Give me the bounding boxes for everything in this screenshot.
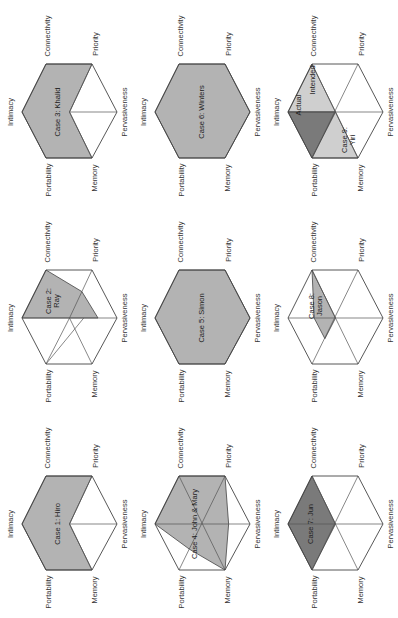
- case-label: Case 4: John & Mary: [191, 489, 199, 559]
- memory-label: Memory: [90, 576, 99, 603]
- pervasiveness-label: Pervasiveness: [386, 500, 395, 549]
- pervasiveness-label: Pervasiveness: [253, 294, 262, 343]
- hexagon-chart: [266, 0, 398, 206]
- priority-label: Priority: [91, 238, 100, 261]
- portability-label: Portability: [44, 576, 53, 609]
- hexagon-chart: [0, 0, 133, 206]
- intimacy-label: Intimacy: [272, 98, 281, 126]
- connectivity-label: Connectivity: [176, 428, 185, 469]
- hexagon-case1: IntimacyConnectivityPriorityPervasivenes…: [0, 412, 133, 618]
- priority-label: Priority: [224, 32, 233, 55]
- priority-label: Priority: [224, 444, 233, 467]
- priority-label: Priority: [357, 444, 366, 467]
- hexagon-case4: IntimacyConnectivityPriorityPervasivenes…: [133, 412, 266, 618]
- pervasiveness-label: Pervasiveness: [120, 500, 129, 549]
- priority-label: Priority: [91, 444, 100, 467]
- hexagon-case3: IntimacyConnectivityPriorityPervasivenes…: [0, 0, 133, 206]
- hexagon-case9: IntimacyConnectivityPriorityPervasivenes…: [266, 0, 398, 206]
- actual-label: Actual: [295, 95, 303, 116]
- pervasiveness-label: Pervasiveness: [253, 88, 262, 137]
- intimacy-label: Intimacy: [6, 98, 15, 126]
- memory-label: Memory: [223, 164, 232, 191]
- priority-label: Priority: [357, 238, 366, 261]
- case-label: Case 2:Ray: [45, 288, 62, 314]
- hexagon-case6: IntimacyConnectivityPriorityPervasivenes…: [133, 0, 266, 206]
- portability-label: Portability: [310, 576, 319, 609]
- hexagon-case8: IntimacyConnectivityPriorityPervasivenes…: [266, 206, 398, 412]
- case-label: Case 7: Jun: [307, 504, 315, 544]
- priority-label: Priority: [357, 32, 366, 55]
- intimacy-label: Intimacy: [6, 304, 15, 332]
- connectivity-label: Connectivity: [43, 222, 52, 263]
- portability-label: Portability: [44, 164, 53, 197]
- intended-label: Intended: [309, 65, 317, 94]
- portability-label: Portability: [177, 576, 186, 609]
- memory-label: Memory: [90, 164, 99, 191]
- intimacy-label: Intimacy: [272, 510, 281, 538]
- memory-label: Memory: [90, 370, 99, 397]
- portability-label: Portability: [177, 164, 186, 197]
- hexagon-case2: IntimacyConnectivityPriorityPervasivenes…: [0, 206, 133, 412]
- intimacy-label: Intimacy: [139, 304, 148, 332]
- memory-label: Memory: [223, 576, 232, 603]
- case-label: Case 5: Simon: [198, 293, 206, 342]
- connectivity-label: Connectivity: [43, 428, 52, 469]
- portability-label: Portability: [310, 164, 319, 197]
- intimacy-label: Intimacy: [272, 304, 281, 332]
- priority-label: Priority: [224, 238, 233, 261]
- memory-label: Memory: [223, 370, 232, 397]
- hexagon-case7: IntimacyConnectivityPriorityPervasivenes…: [266, 412, 398, 618]
- case-label: Case 3: Khalid: [54, 88, 62, 137]
- case-label: Case 8:Jason: [308, 293, 325, 319]
- pervasiveness-label: Pervasiveness: [253, 500, 262, 549]
- case-label: Case 1: Hiro: [54, 503, 62, 545]
- hexagon-chart: [266, 412, 398, 618]
- hexagon-case5: IntimacyConnectivityPriorityPervasivenes…: [133, 206, 266, 412]
- connectivity-label: Connectivity: [309, 16, 318, 57]
- pervasiveness-label: Pervasiveness: [386, 88, 395, 137]
- pervasiveness-label: Pervasiveness: [120, 88, 129, 137]
- portability-label: Portability: [310, 370, 319, 403]
- portability-label: Portability: [177, 370, 186, 403]
- case-label: Case 6: Winters: [198, 85, 206, 138]
- memory-label: Memory: [356, 576, 365, 603]
- connectivity-label: Connectivity: [309, 428, 318, 469]
- pervasiveness-label: Pervasiveness: [120, 294, 129, 343]
- hexagon-chart: [0, 412, 133, 618]
- portability-label: Portability: [44, 370, 53, 403]
- memory-label: Memory: [356, 164, 365, 191]
- priority-label: Priority: [91, 32, 100, 55]
- memory-label: Memory: [356, 370, 365, 397]
- hexagon-chart: [133, 412, 266, 618]
- pervasiveness-label: Pervasiveness: [386, 294, 395, 343]
- case-label: Case 9:Yiri: [341, 127, 358, 153]
- intimacy-label: Intimacy: [6, 510, 15, 538]
- intimacy-label: Intimacy: [139, 98, 148, 126]
- connectivity-label: Connectivity: [43, 16, 52, 57]
- connectivity-label: Connectivity: [176, 16, 185, 57]
- connectivity-label: Connectivity: [309, 222, 318, 263]
- hexagon-chart: [0, 206, 133, 412]
- intimacy-label: Intimacy: [139, 510, 148, 538]
- connectivity-label: Connectivity: [176, 222, 185, 263]
- hexagon-chart: [266, 206, 398, 412]
